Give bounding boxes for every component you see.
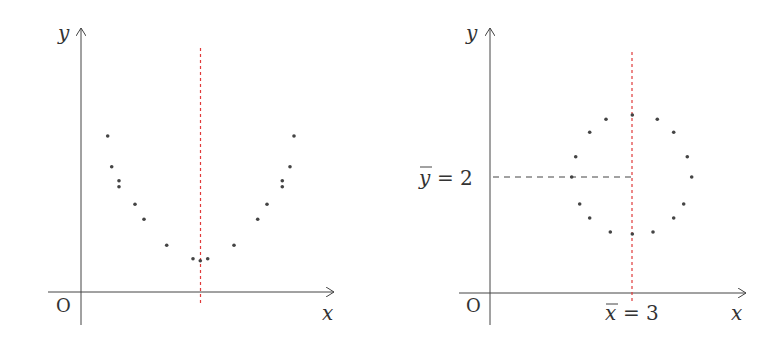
data-point <box>265 203 269 207</box>
ybar-value: = 2 <box>437 166 473 190</box>
xbar-value: = 3 <box>623 301 659 325</box>
figure: y x O y x O y = 2 x = 3 <box>0 0 782 348</box>
data-point <box>281 185 285 189</box>
data-point <box>256 218 260 222</box>
data-point <box>588 216 592 220</box>
data-point <box>651 230 655 234</box>
data-point <box>682 202 686 206</box>
data-point <box>672 216 676 220</box>
data-point <box>232 244 236 248</box>
right-origin-label: O <box>466 295 481 316</box>
data-point <box>199 259 203 263</box>
data-point <box>142 218 146 222</box>
data-point <box>292 134 296 138</box>
data-point <box>609 230 613 234</box>
data-point <box>578 202 582 206</box>
data-point <box>191 257 195 261</box>
data-point <box>281 179 285 183</box>
data-point <box>574 155 578 159</box>
data-point <box>604 118 608 122</box>
left-scatter-plot: y x O <box>48 21 334 325</box>
data-point <box>690 175 694 179</box>
data-point <box>165 244 169 248</box>
data-point <box>631 113 635 117</box>
data-point <box>117 185 121 189</box>
data-point <box>206 257 210 261</box>
ybar-symbol: y <box>418 166 431 190</box>
right-y-axis-label: y <box>465 21 478 45</box>
data-point <box>133 203 137 207</box>
left-x-axis-label: x <box>322 301 333 325</box>
data-point <box>631 232 635 236</box>
data-point <box>106 134 110 138</box>
xbar-symbol: x <box>605 301 616 325</box>
data-point <box>117 179 121 183</box>
left-origin-label: O <box>56 295 71 316</box>
data-point <box>570 175 574 179</box>
data-point <box>588 131 592 135</box>
left-y-axis-label: y <box>57 21 70 45</box>
data-point <box>672 131 676 135</box>
right-scatter-plot: y x O y = 2 x = 3 <box>418 21 746 325</box>
data-point <box>110 165 114 169</box>
data-point <box>686 155 690 159</box>
right-x-axis-label: x <box>731 301 742 325</box>
data-point <box>656 118 660 122</box>
data-point <box>288 165 292 169</box>
